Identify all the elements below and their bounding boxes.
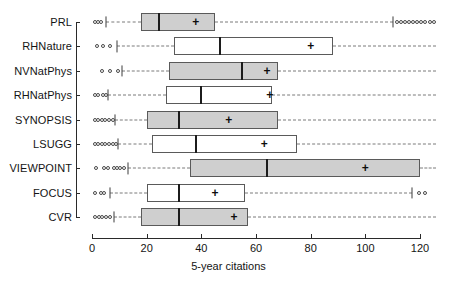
boxplot-chart: PRLRHNatureNVNatPhysRHNatPhysSYNOPSISLSU… — [0, 0, 457, 281]
outlier-point — [106, 166, 110, 170]
box-focus — [147, 184, 245, 202]
whisker-high — [420, 168, 436, 169]
outlier-point — [104, 93, 108, 97]
outlier-point — [95, 44, 99, 48]
box-prl — [141, 13, 215, 31]
median-line — [158, 13, 160, 31]
median-line — [266, 159, 268, 177]
outlier-point — [432, 20, 436, 24]
outlier-point — [102, 191, 106, 195]
x-tick-60 — [256, 234, 257, 239]
x-tick-label-0: 0 — [89, 242, 95, 254]
whisker-cap-low — [113, 212, 114, 223]
y-tick-focus — [76, 193, 80, 194]
whisker-high — [245, 192, 412, 193]
box-rhnatphys — [166, 86, 273, 104]
whisker-low — [115, 119, 146, 120]
x-tick-label-100: 100 — [356, 242, 374, 254]
x-tick-100 — [365, 234, 366, 239]
outlier-point — [108, 215, 112, 219]
x-tick-20 — [147, 234, 148, 239]
whisker-cap-low — [105, 16, 106, 27]
mean-marker: + — [266, 89, 273, 101]
y-tick-label-cvr: CVR — [0, 211, 72, 223]
box-nvnatphys — [169, 62, 278, 80]
whisker-low — [118, 144, 152, 145]
x-tick-0 — [92, 234, 93, 239]
outlier-point — [114, 142, 118, 146]
outlier-point — [101, 44, 105, 48]
outlier-point — [94, 166, 98, 170]
median-line — [178, 184, 180, 202]
median-line — [219, 37, 221, 55]
y-tick-synopsis — [76, 120, 80, 121]
whisker-high — [297, 144, 436, 145]
y-tick-label-rhnature: RHNature — [0, 40, 72, 52]
y-tick-label-focus: FOCUS — [0, 187, 72, 199]
mean-marker: + — [261, 138, 268, 150]
box-synopsis — [147, 111, 278, 129]
outlier-point — [99, 20, 103, 24]
median-line — [195, 135, 197, 153]
x-tick-label-40: 40 — [195, 242, 207, 254]
whisker-high — [278, 119, 437, 120]
whisker-low — [122, 70, 168, 71]
box-lsugg — [152, 135, 297, 153]
y-tick-cvr — [76, 217, 80, 218]
mean-marker: + — [225, 114, 232, 126]
outlier-point — [108, 44, 112, 48]
median-line — [241, 62, 243, 80]
outlier-point — [96, 93, 100, 97]
whisker-cap-high — [411, 187, 412, 198]
whisker-high — [215, 22, 393, 23]
whisker-cap-low — [127, 163, 128, 174]
median-line — [200, 86, 202, 104]
outlier-point — [111, 118, 115, 122]
x-tick-label-20: 20 — [141, 242, 153, 254]
y-tick-rhnatphys — [76, 95, 80, 96]
x-tick-label-120: 120 — [411, 242, 429, 254]
y-tick-rhnature — [76, 46, 80, 47]
outlier-point — [417, 191, 421, 195]
x-tick-40 — [201, 234, 202, 239]
whisker-high — [248, 217, 437, 218]
whisker-cap-low — [122, 65, 123, 76]
whisker-low — [110, 192, 147, 193]
whisker-low — [108, 95, 165, 96]
mean-marker: + — [231, 211, 238, 223]
x-axis-title: 5-year citations — [0, 260, 457, 272]
y-tick-label-nvnatphys: NVNatPhys — [0, 65, 72, 77]
outlier-point — [122, 166, 126, 170]
outlier-point — [93, 191, 97, 195]
whisker-high — [333, 46, 437, 47]
y-tick-label-viewpoint: VIEWPOINT — [0, 162, 72, 174]
whisker-high — [272, 95, 436, 96]
whisker-cap-low — [109, 187, 110, 198]
x-tick-label-60: 60 — [250, 242, 262, 254]
mean-marker: + — [211, 187, 218, 199]
median-line — [178, 208, 180, 226]
y-tick-viewpoint — [76, 168, 80, 169]
whisker-low — [117, 46, 174, 47]
outlier-point — [116, 69, 120, 73]
mean-marker: + — [362, 162, 369, 174]
whisker-low — [114, 217, 141, 218]
x-tick-80 — [311, 234, 312, 239]
mean-marker: + — [307, 40, 314, 52]
y-tick-label-lsugg: LSUGG — [0, 138, 72, 150]
y-tick-nvnatphys — [76, 71, 80, 72]
outlier-point — [108, 69, 112, 73]
mean-marker: + — [192, 16, 199, 28]
y-tick-prl — [76, 22, 80, 23]
whisker-cap-low — [116, 41, 117, 52]
y-tick-lsugg — [76, 144, 80, 145]
x-tick-120 — [420, 234, 421, 239]
whisker-low — [106, 22, 142, 23]
y-tick-label-prl: PRL — [0, 16, 72, 28]
whisker-low — [128, 168, 191, 169]
whisker-cap-low — [115, 114, 116, 125]
outlier-point — [100, 69, 104, 73]
y-tick-label-rhnatphys: RHNatPhys — [0, 89, 72, 101]
whisker-cap-high — [392, 16, 393, 27]
x-tick-label-80: 80 — [305, 242, 317, 254]
